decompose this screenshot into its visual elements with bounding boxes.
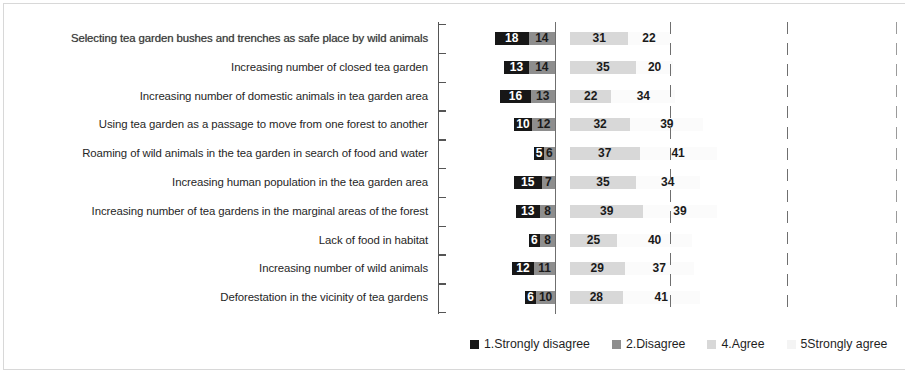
bar-segment bbox=[529, 234, 540, 247]
bar-segment bbox=[504, 61, 528, 74]
bar-segment bbox=[628, 32, 669, 45]
bar-segment bbox=[570, 90, 611, 103]
bar-segment bbox=[570, 205, 643, 218]
legend-item[interactable]: 5Strongly agree bbox=[787, 338, 888, 350]
category-label: Increasing number of wild animals bbox=[259, 254, 428, 283]
category-label: Roaming of wild animals in the tea garde… bbox=[82, 139, 428, 168]
bar-segment bbox=[570, 234, 617, 247]
bar-segment bbox=[544, 147, 555, 160]
bar-segment bbox=[514, 118, 533, 131]
bar-row: 12112937 bbox=[450, 254, 902, 283]
legend-item[interactable]: 1.Strongly disagree bbox=[470, 338, 590, 350]
bar-segment bbox=[514, 176, 542, 189]
bar-segment bbox=[534, 262, 555, 275]
bar-segment bbox=[640, 147, 717, 160]
category-axis-tick bbox=[438, 197, 446, 198]
category-label: Lack of food in habitat bbox=[319, 226, 428, 255]
category-axis-tick bbox=[438, 110, 446, 111]
bar-series-container: 1814312213143520161322341012323956374115… bbox=[450, 24, 902, 312]
value-gridline bbox=[896, 22, 897, 314]
category-label-column: Selecting tea garden bushes and trenches… bbox=[0, 24, 432, 312]
bar-segment bbox=[532, 118, 555, 131]
legend-swatch-icon bbox=[787, 340, 796, 349]
bar-segment bbox=[570, 176, 636, 189]
legend-label: 4.Agree bbox=[721, 338, 764, 350]
category-label: Increasing number of domestic animals in… bbox=[140, 82, 428, 111]
category-label: Increasing number of closed tea garden bbox=[231, 53, 428, 82]
bar-row: 682540 bbox=[450, 226, 902, 255]
value-gridline bbox=[787, 22, 788, 314]
bar-row: 563741 bbox=[450, 139, 902, 168]
bar-segment bbox=[495, 32, 529, 45]
category-label: Increasing number of tea gardens in the … bbox=[92, 197, 428, 226]
bar-segment bbox=[529, 61, 555, 74]
legend-label: 5Strongly agree bbox=[801, 338, 888, 350]
legend-label: 2.Disagree bbox=[626, 338, 685, 350]
bar-row: 10123239 bbox=[450, 110, 902, 139]
legend-label: 1.Strongly disagree bbox=[484, 338, 590, 350]
category-axis-tick bbox=[438, 226, 446, 227]
legend-swatch-icon bbox=[470, 340, 479, 349]
bar-segment bbox=[570, 32, 628, 45]
bar-segment bbox=[643, 205, 716, 218]
bar-segment bbox=[623, 291, 700, 304]
category-axis-tick bbox=[438, 283, 446, 284]
bar-segment bbox=[516, 205, 540, 218]
category-axis-tick bbox=[438, 53, 446, 54]
category-axis-tick bbox=[438, 254, 446, 255]
category-axis-tick bbox=[438, 24, 446, 25]
bar-row: 6102841 bbox=[450, 283, 902, 312]
legend-swatch-icon bbox=[612, 340, 621, 349]
zero-gridline bbox=[555, 22, 556, 314]
bar-segment bbox=[625, 262, 695, 275]
bar-segment bbox=[534, 147, 543, 160]
bar-row: 1573534 bbox=[450, 168, 902, 197]
bar-segment bbox=[531, 90, 555, 103]
bar-segment bbox=[540, 234, 555, 247]
category-label: Selecting tea garden bushes and trenches… bbox=[71, 24, 428, 53]
bar-segment bbox=[542, 176, 555, 189]
bar-row: 18143122 bbox=[450, 24, 902, 53]
bar-segment bbox=[617, 234, 692, 247]
bar-row: 13143520 bbox=[450, 53, 902, 82]
value-gridline bbox=[670, 22, 671, 314]
chart-figure: Selecting tea garden bushes and trenches… bbox=[0, 0, 908, 373]
bar-segment bbox=[636, 61, 674, 74]
bar-segment bbox=[540, 205, 555, 218]
bar-segment bbox=[500, 90, 530, 103]
category-label: Using tea garden as a passage to move fr… bbox=[99, 110, 428, 139]
chart-legend: 1.Strongly disagree2.Disagree4.Agree5Str… bbox=[0, 330, 908, 373]
category-axis-tick bbox=[438, 82, 446, 83]
plot-area: Selecting tea garden bushes and trenches… bbox=[0, 0, 908, 330]
category-axis-tick bbox=[438, 139, 446, 140]
category-label: Deforestation in the vicinity of tea gar… bbox=[220, 283, 428, 312]
category-label: Increasing human population in the tea g… bbox=[172, 168, 428, 197]
bar-segment bbox=[570, 61, 636, 74]
category-axis-tick bbox=[438, 168, 446, 169]
bar-segment bbox=[570, 262, 625, 275]
bar-segment bbox=[630, 118, 703, 131]
legend-items: 1.Strongly disagree2.Disagree4.Agree5Str… bbox=[470, 338, 887, 350]
legend-swatch-icon bbox=[707, 340, 716, 349]
bar-row: 1383939 bbox=[450, 197, 902, 226]
category-axis-tick bbox=[438, 312, 446, 313]
bar-segment bbox=[525, 291, 536, 304]
bar-segment bbox=[570, 291, 623, 304]
bar-segment bbox=[636, 176, 700, 189]
bar-segment bbox=[570, 118, 630, 131]
bar-segment bbox=[570, 147, 640, 160]
bar-segment bbox=[529, 32, 555, 45]
bar-segment bbox=[512, 262, 535, 275]
legend-item[interactable]: 2.Disagree bbox=[612, 338, 685, 350]
bar-segment bbox=[611, 90, 675, 103]
bar-segment bbox=[536, 291, 555, 304]
bar-row: 16132234 bbox=[450, 82, 902, 111]
legend-item[interactable]: 4.Agree bbox=[707, 338, 764, 350]
category-axis bbox=[438, 22, 450, 314]
